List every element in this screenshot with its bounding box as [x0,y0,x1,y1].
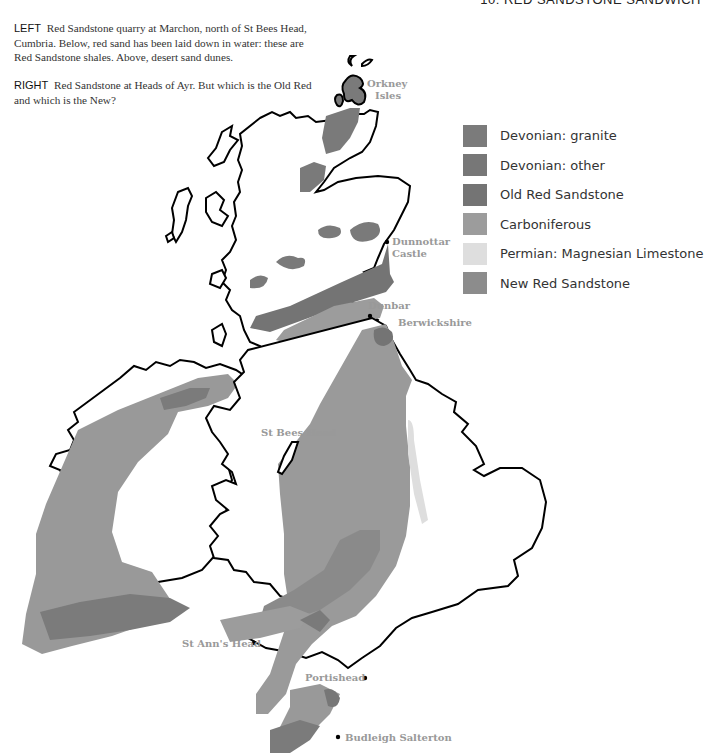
legend-swatch [463,154,487,176]
label-st-anns-head: St Ann's Head [182,638,261,649]
map-legend: Devonian: granite Devonian: other Old Re… [463,121,703,298]
legend-swatch [463,125,487,147]
legend-label: Carboniferous [500,217,591,232]
label-portishead: Portishead [305,672,365,683]
hebrides [166,126,238,346]
label-st-bees-head: St Bees Head [261,427,336,438]
label-budleigh-salterton: Budleigh Salterton [345,732,452,743]
label-orkney-isles: Isles [375,90,401,101]
legend-item-old-red-sandstone: Old Red Sandstone [463,180,703,210]
legend-item-permian: Permian: Magnesian Limestone [463,239,703,269]
legend-label: New Red Sandstone [500,276,630,291]
label-dunbar: Dunbar [368,300,410,311]
legend-item-devonian-other: Devonian: other [463,151,703,181]
legend-label: Devonian: granite [500,128,617,143]
legend-label: Old Red Sandstone [500,187,624,202]
legend-label: Permian: Magnesian Limestone [500,246,703,261]
geology-map [0,0,705,753]
label-dunnottar-castle: Castle [392,248,427,259]
legend-swatch [463,243,487,265]
legend-swatch [463,272,487,294]
label-dunnottar: Dunnottar [392,236,450,247]
label-orkney: Orkney [367,78,407,89]
label-berwickshire: Berwickshire [398,317,472,328]
legend-item-carboniferous: Carboniferous [463,210,703,240]
legend-item-new-red-sandstone: New Red Sandstone [463,269,703,299]
england-wales [206,318,546,753]
legend-label: Devonian: other [500,158,605,173]
ireland [22,360,248,654]
legend-swatch [463,213,487,235]
legend-item-devonian-granite: Devonian: granite [463,121,703,151]
legend-swatch [463,184,487,206]
